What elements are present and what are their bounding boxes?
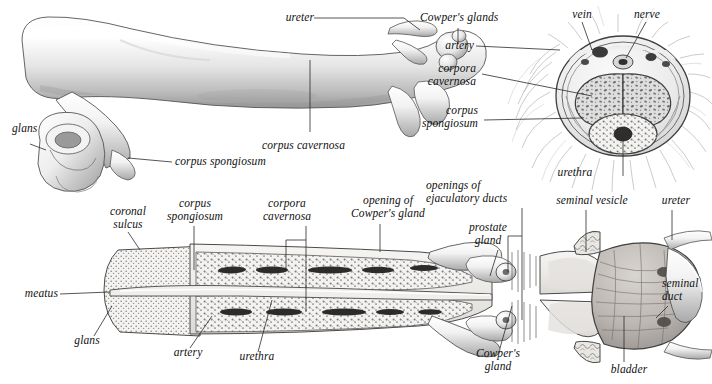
label-seminal-duct: seminal duct	[662, 277, 712, 302]
label-corpus-spongiosum-sagittal: corpus spongiosum	[155, 197, 235, 222]
label-prostate-gland: prostate gland	[458, 221, 518, 246]
label-corpus-cavernosa-top: corpus cavernosa	[262, 139, 382, 152]
label-ureter-top: ureter	[250, 11, 314, 24]
label-nerve: nerve	[624, 8, 670, 21]
label-coronal-sulcus: coronal sulcus	[98, 205, 158, 230]
label-bladder: bladder	[600, 363, 658, 376]
label-openings-ejaculatory-ducts: openings of ejaculatory ducts	[426, 179, 536, 204]
panel-cross-section	[508, 6, 712, 192]
label-corpus-spongiosum-cross-section: corpus spongiosum	[392, 104, 478, 129]
label-corpora-cavernosa-sagittal: corpora cavernosa	[248, 197, 326, 222]
label-artery-sagittal: artery	[162, 346, 214, 359]
label-urethra-sagittal: urethra	[228, 350, 286, 363]
label-corpora-cavernosa-cross-section: corpora cavernosa	[402, 62, 476, 87]
label-cowpers-glands: Cowper's glands	[420, 11, 520, 24]
label-urethra-cross-section: urethra	[546, 166, 604, 179]
label-ureter-bottom: ureter	[652, 194, 700, 207]
illustration-plate: ureter Cowper's glands glans corpus spon…	[0, 0, 712, 384]
label-glans-bottom: glans	[64, 334, 110, 347]
label-cowpers-gland-bottom: Cowper's gland	[466, 347, 530, 372]
label-opening-cowpers-gland: opening of Cowper's gland	[336, 194, 440, 219]
label-artery-cross-section: artery	[412, 39, 474, 52]
label-vein: vein	[562, 8, 602, 21]
label-corpus-spongiosum-top: corpus spongiosum	[175, 155, 311, 168]
label-meatus: meatus	[8, 287, 58, 300]
label-glans-top: glans	[12, 122, 56, 135]
label-seminal-vesicle: seminal vesicle	[546, 194, 638, 207]
panel-sagittal-section	[104, 231, 712, 363]
anatomy-artwork	[0, 0, 712, 384]
